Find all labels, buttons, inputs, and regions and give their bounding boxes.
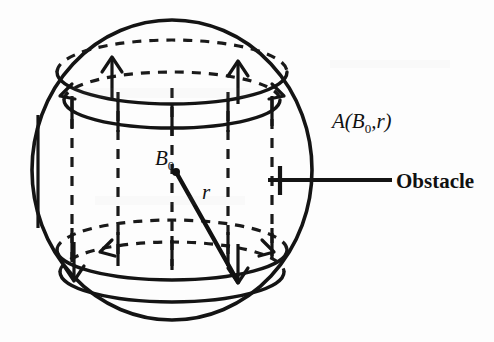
region-label-b: B: [352, 109, 365, 133]
sphere-cylinder-diagram: A(B0,r) B0 r Obstacle: [0, 0, 494, 342]
obstacle-label: Obstacle: [396, 169, 474, 193]
region-label-close: ): [384, 109, 392, 133]
top-outer-ellipse-back: [57, 40, 287, 72]
figure-canvas: A(B0,r) B0 r Obstacle: [0, 0, 494, 342]
top-outer-ellipse-front: [57, 72, 287, 104]
region-label-a: A(: [330, 109, 354, 133]
center-label-main: B: [155, 146, 168, 170]
radius-label: r: [202, 180, 211, 204]
region-label: A(B0,r): [330, 109, 392, 136]
center-label-sub: 0: [168, 158, 175, 173]
bottom-lower-ellipse-front: [60, 272, 284, 302]
